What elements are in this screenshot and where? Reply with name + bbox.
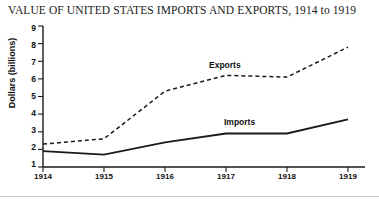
y-axis-title: Dollars (billions) [7, 23, 17, 123]
plot-area: Dollars (billions) 9 8 7 6 5 4 3 2 1 191… [0, 16, 379, 184]
chart-title: VALUE OF UNITED STATES IMPORTS AND EXPOR… [8, 4, 356, 16]
y-axis-ticks [38, 26, 43, 167]
y-tick-label-8: 8 [22, 40, 36, 50]
y-tick-label-3: 3 [22, 125, 36, 135]
y-tick-label-9: 9 [22, 23, 36, 33]
y-tick-label-7: 7 [22, 57, 36, 67]
axis-lines [43, 26, 365, 167]
x-tick-label-1918: 1918 [267, 172, 307, 181]
y-tick-label-4: 4 [22, 108, 36, 118]
series-label-imports: Imports [224, 117, 255, 127]
x-tick-label-1914: 1914 [23, 172, 63, 181]
series-line-imports [43, 119, 348, 154]
y-tick-label-2: 2 [22, 142, 36, 152]
y-tick-label-6: 6 [22, 74, 36, 84]
chart-page: VALUE OF UNITED STATES IMPORTS AND EXPOR… [0, 0, 379, 200]
x-tick-label-1919: 1919 [328, 172, 368, 181]
x-tick-label-1916: 1916 [145, 172, 185, 181]
y-tick-label-5: 5 [22, 91, 36, 101]
bottom-divider [0, 196, 379, 197]
series-label-exports: Exports [209, 60, 241, 70]
x-tick-label-1917: 1917 [206, 172, 246, 181]
y-tick-label-1: 1 [22, 159, 36, 169]
x-tick-label-1915: 1915 [84, 172, 124, 181]
chart-canvas [0, 16, 379, 184]
